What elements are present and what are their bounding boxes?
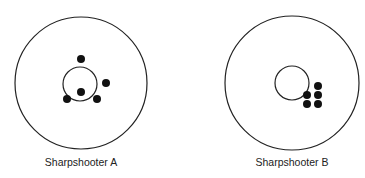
shot [314,100,322,108]
outer-ring [15,17,147,149]
targets-diagram [0,0,365,178]
shot [93,95,101,103]
outer-ring [225,16,359,150]
shot [303,100,311,108]
label-sharpshooter-b: Sharpshooter B [232,156,352,168]
shot [314,82,322,90]
target-b [225,16,359,150]
shot [303,91,311,99]
target-a [15,17,147,149]
shot [77,55,85,63]
shot [314,91,322,99]
shot [77,88,85,96]
label-sharpshooter-a: Sharpshooter A [21,156,141,168]
shot [63,95,71,103]
shot [102,79,110,87]
